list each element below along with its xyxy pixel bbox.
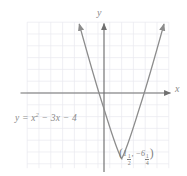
vertex-coordinate-label: (112, −614)	[119, 148, 154, 166]
vertex-y-denominator: 4	[145, 159, 149, 166]
vertex-close-paren: )	[150, 147, 154, 160]
x-axis-label: x	[175, 84, 179, 94]
vertex-y-whole: −6	[136, 149, 145, 158]
vertex-x-denominator: 2	[127, 159, 131, 166]
plot-canvas	[0, 0, 187, 176]
y-axis-label: y	[97, 8, 101, 18]
equation-remainder: − 3x − 4	[39, 113, 77, 123]
equation-equals: =	[19, 113, 31, 123]
grid-lines	[27, 22, 169, 168]
quadratic-graph-figure: y = x2 − 3x − 4 y x (112, −614)	[0, 0, 187, 176]
equation-label: y = x2 − 3x − 4	[15, 112, 77, 124]
